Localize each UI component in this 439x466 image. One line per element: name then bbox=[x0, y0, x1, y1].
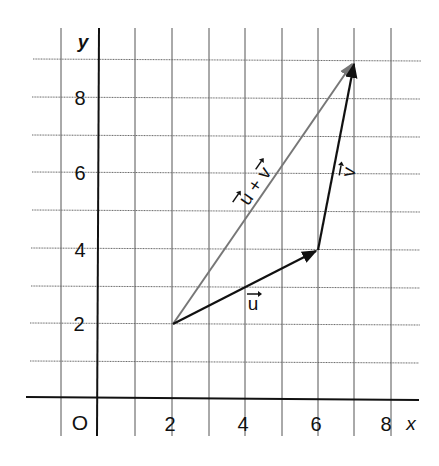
vector-v-arrow bbox=[318, 64, 354, 250]
diagram-canvas: y x O 2 4 6 8 8 6 4 2 u v u + v bbox=[0, 0, 439, 466]
y-tick-labels: 8 6 4 2 bbox=[73, 87, 85, 335]
y-axis bbox=[97, 28, 99, 436]
x-axis-label: x bbox=[405, 413, 417, 434]
y-tick-2: 2 bbox=[73, 313, 84, 335]
y-tick-8: 8 bbox=[74, 87, 85, 109]
grid-vertical-lines bbox=[61, 28, 391, 436]
y-tick-6: 6 bbox=[74, 162, 85, 184]
x-tick-6: 6 bbox=[310, 413, 321, 435]
x-tick-8: 8 bbox=[380, 413, 391, 435]
y-axis-label: y bbox=[77, 31, 90, 52]
vector-v-label: v bbox=[336, 161, 360, 179]
origin-label: O bbox=[72, 411, 88, 434]
x-tick-labels: 2 4 6 8 bbox=[164, 413, 391, 435]
vector-diagram: y x O 2 4 6 8 8 6 4 2 u v u + v bbox=[0, 0, 439, 466]
x-tick-4: 4 bbox=[237, 413, 248, 435]
x-tick-2: 2 bbox=[164, 413, 175, 435]
vector-u-label: u bbox=[247, 291, 262, 314]
vector-u-plus-v-arrow bbox=[173, 64, 352, 324]
y-tick-4: 4 bbox=[74, 239, 85, 261]
x-axis bbox=[26, 397, 419, 400]
vector-u-label-text: u bbox=[248, 293, 259, 314]
grid-horizontal-lines bbox=[30, 59, 421, 363]
